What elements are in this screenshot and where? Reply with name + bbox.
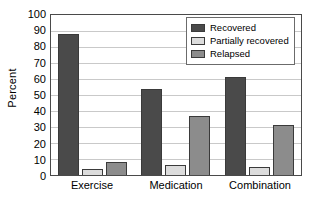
y-axis-tick-80: 80 (34, 40, 46, 52)
bar-combination-relapsed[interactable] (273, 125, 294, 175)
y-axis-tick-labels: 1009080706050403020100 (20, 14, 48, 176)
legend-item-relapsed[interactable]: Relapsed (191, 48, 289, 60)
legend-label: Relapsed (210, 49, 250, 59)
bar-chart: Percent 1009080706050403020100 ExerciseM… (0, 0, 320, 213)
chart-legend: RecoveredPartially recoveredRelapsed (186, 17, 295, 65)
y-axis-tick-30: 30 (34, 121, 46, 133)
legend-swatch-icon-partially-recovered (191, 37, 205, 45)
bar-exercise-partially-recovered[interactable] (82, 169, 103, 175)
y-axis-tick-40: 40 (34, 105, 46, 117)
x-axis-tick-combination: Combination (218, 179, 302, 199)
legend-swatch-icon-recovered (191, 24, 205, 32)
y-axis-title: Percent (2, 0, 22, 175)
legend-label: Recovered (210, 23, 256, 33)
bar-combination-recovered[interactable] (225, 77, 246, 175)
legend-item-partially-recovered[interactable]: Partially recovered (191, 35, 289, 47)
legend-swatch-icon-relapsed (191, 50, 205, 58)
bar-exercise-relapsed[interactable] (106, 162, 127, 175)
bar-medication-partially-recovered[interactable] (165, 165, 186, 175)
y-axis-tick-70: 70 (34, 57, 46, 69)
y-axis-tick-10: 10 (34, 154, 46, 166)
x-axis-tick-labels: ExerciseMedicationCombination (50, 179, 302, 199)
legend-label: Partially recovered (210, 36, 289, 46)
x-axis-tick-medication: Medication (134, 179, 218, 199)
bar-combination-partially-recovered[interactable] (249, 167, 270, 175)
bar-medication-recovered[interactable] (141, 89, 162, 175)
x-axis-tick-exercise: Exercise (50, 179, 134, 199)
y-axis-tick-0: 0 (40, 170, 46, 182)
y-axis-title-label: Percent (6, 68, 18, 107)
y-axis-tick-60: 60 (34, 73, 46, 85)
bar-medication-relapsed[interactable] (189, 116, 210, 175)
bar-exercise-recovered[interactable] (58, 34, 79, 175)
y-axis-tick-100: 100 (28, 8, 46, 20)
y-axis-tick-20: 20 (34, 138, 46, 150)
bar-group-exercise (51, 15, 134, 175)
y-axis-tick-90: 90 (34, 24, 46, 36)
legend-item-recovered[interactable]: Recovered (191, 22, 289, 34)
y-axis-tick-50: 50 (34, 89, 46, 101)
